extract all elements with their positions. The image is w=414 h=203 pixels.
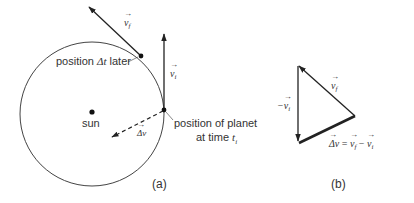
eq-minus: − [356,138,367,149]
eq-equals: = [339,138,350,149]
orbit-velocity-diagram [0,0,414,203]
eq-term1: v [350,138,354,149]
label-later-position: position Δt later [56,56,131,67]
vf-subscript: f [128,22,130,30]
vi-symbol: v [170,68,174,79]
label-planet-position-line2: at time ti [196,132,237,146]
vector-vf-arrow [89,7,141,56]
caption-a: (a) [152,178,167,190]
label-vi-a: vi [170,69,176,81]
later-position-delta: Δt [97,55,107,67]
vf-symbol: v [124,17,128,28]
neg-vi-symbol: v [284,100,288,111]
label-vf-a: vf [124,18,130,30]
neg-sign: − [277,100,284,111]
label-equation: Δv = vf − vi [329,139,373,151]
later-position-prefix: position [56,55,97,67]
vf-b-symbol: v [331,80,335,91]
label-neg-vi-b: −vi [277,101,290,113]
caption-b: (b) [331,178,346,190]
label-sun: sun [82,118,100,129]
at-time-prefix: at time [196,131,232,143]
eq-lhs: Δv [329,138,339,149]
label-delta-v-a: Δv [137,129,146,138]
time-subscript: i [235,138,237,146]
delta-v-symbol: Δv [137,128,146,138]
planet-position-leader [166,112,173,120]
label-vf-b: vf [331,81,337,93]
later-position-suffix: later [107,55,131,67]
sun-dot [89,109,94,114]
eq-term2-sub: i [371,143,373,151]
eq-term2: v [367,138,371,149]
label-planet-position-line1: position of planet [174,118,257,129]
panel-a [20,7,173,186]
vi-subscript: i [174,73,176,81]
later-position-dot [139,54,144,59]
neg-vi-subscript: i [288,105,290,113]
vector-vf-arrow-b [299,66,355,116]
panel-b [298,66,355,143]
vf-b-subscript: f [335,85,337,93]
